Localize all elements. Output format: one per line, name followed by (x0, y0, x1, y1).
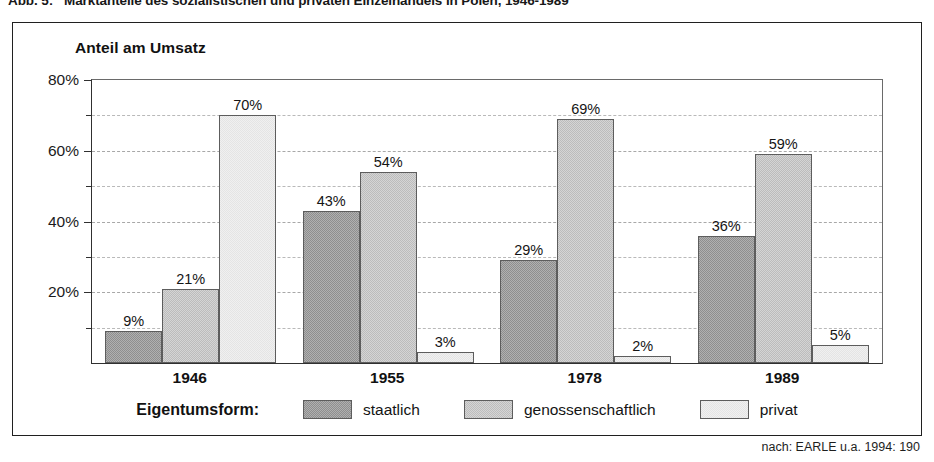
category-label-1989: 1989 (765, 369, 799, 387)
y-axis-tick (84, 80, 92, 81)
bar-value-label: 21% (176, 271, 205, 287)
figure-frame: Anteil am Umsatz 9%21%70%43%54%3%29%69%2… (12, 22, 922, 436)
legend-item-staatlich[interactable]: staatlich (303, 400, 420, 419)
legend-swatch-privat (700, 400, 749, 419)
figure-caption-number: Abb. 5: (8, 0, 53, 8)
y-axis-label: 40% (48, 213, 79, 231)
y-axis-tick (84, 222, 92, 223)
bar-group: 43%54%3% (303, 80, 474, 363)
legend-item-privat[interactable]: privat (700, 400, 798, 419)
bar-privat-1989[interactable]: 5% (812, 345, 869, 363)
bar-genossenschaftlich-1978[interactable]: 69% (557, 119, 614, 363)
category-label-1955: 1955 (370, 369, 404, 387)
y-axis-label: 60% (48, 142, 79, 160)
plot-area: 9%21%70%43%54%3%29%69%2%36%59%5% 20%40%6… (91, 79, 883, 364)
y-axis-tick-minor (86, 257, 92, 258)
bar-group: 36%59%5% (698, 80, 869, 363)
bar-value-label: 3% (435, 334, 456, 350)
bar-genossenschaftlich-1989[interactable]: 59% (755, 154, 812, 363)
bar-value-label: 29% (514, 242, 543, 258)
y-axis-tick-minor (86, 186, 92, 187)
bar-privat-1978[interactable]: 2% (614, 356, 671, 363)
category-label-1946: 1946 (173, 369, 207, 387)
source-note: nach: EARLE u.a. 1994: 190 (762, 440, 920, 454)
bar-value-label: 69% (571, 101, 600, 117)
bar-value-label: 54% (374, 154, 403, 170)
bar-value-label: 59% (769, 136, 798, 152)
bar-genossenschaftlich-1955[interactable]: 54% (360, 172, 417, 363)
y-axis-tick (84, 292, 92, 293)
y-axis-label: 20% (48, 283, 79, 301)
legend-swatch-genossenschaftlich (464, 400, 513, 419)
legend-label-privat: privat (760, 401, 798, 419)
category-label-1978: 1978 (568, 369, 602, 387)
legend-swatch-staatlich (303, 400, 352, 419)
chart-legend: Eigentumsform: staatlichgenossenschaftli… (13, 400, 921, 419)
y-axis-tick-minor (86, 115, 92, 116)
y-axis-tick (84, 151, 92, 152)
bar-staatlich-1989[interactable]: 36% (698, 236, 755, 363)
bar-value-label: 36% (712, 218, 741, 234)
y-axis-label: 80% (48, 71, 79, 89)
bar-value-label: 5% (830, 327, 851, 343)
figure-caption: Abb. 5:Marktanteile des sozialistischen … (8, 0, 926, 8)
bar-staatlich-1946[interactable]: 9% (105, 331, 162, 363)
bar-value-label: 2% (632, 338, 653, 354)
chart-title: Anteil am Umsatz (75, 39, 206, 57)
legend-title: Eigentumsform: (136, 401, 259, 419)
legend-label-genossenschaftlich: genossenschaftlich (524, 401, 656, 419)
legend-item-genossenschaftlich[interactable]: genossenschaftlich (464, 400, 656, 419)
bar-value-label: 43% (317, 193, 346, 209)
bar-group: 29%69%2% (500, 80, 671, 363)
bar-staatlich-1978[interactable]: 29% (500, 260, 557, 363)
bar-group: 9%21%70% (105, 80, 276, 363)
plot-inner: 9%21%70%43%54%3%29%69%2%36%59%5% (92, 80, 882, 363)
figure-caption-text: Marktanteile des sozialistischen und pri… (64, 0, 569, 8)
bar-staatlich-1955[interactable]: 43% (303, 211, 360, 363)
legend-label-staatlich: staatlich (363, 401, 420, 419)
y-axis-tick-minor (86, 328, 92, 329)
bar-value-label: 70% (233, 97, 262, 113)
bar-privat-1955[interactable]: 3% (417, 352, 474, 363)
bar-genossenschaftlich-1946[interactable]: 21% (162, 289, 219, 363)
bar-privat-1946[interactable]: 70% (219, 115, 276, 363)
bar-value-label: 9% (123, 313, 144, 329)
